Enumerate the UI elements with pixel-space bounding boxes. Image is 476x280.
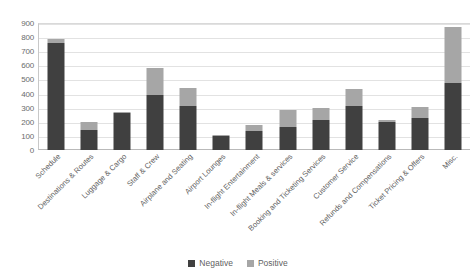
bar-stack[interactable] — [180, 88, 197, 151]
bar-group[interactable] — [271, 23, 304, 150]
bar-group[interactable] — [304, 23, 337, 150]
y-axis-tick-label: 200 — [21, 117, 34, 126]
y-axis-tick-label: 600 — [21, 61, 34, 70]
bar-segment-negative[interactable] — [113, 113, 130, 150]
y-axis-tick-label: 100 — [21, 131, 34, 140]
bar-stack[interactable] — [412, 107, 429, 150]
bar-group[interactable] — [404, 23, 437, 150]
bar-segment-positive[interactable] — [180, 88, 197, 106]
y-axis-tick-label: 700 — [21, 47, 34, 56]
bar-stack[interactable] — [113, 112, 130, 150]
bar-segment-positive[interactable] — [147, 68, 164, 95]
bar-stack[interactable] — [47, 39, 64, 150]
bar-group[interactable] — [437, 23, 470, 150]
bar-segment-positive[interactable] — [80, 122, 97, 130]
y-axis-tick-label: 0 — [30, 146, 34, 155]
chart-legend: NegativePositive — [0, 258, 476, 268]
bar-segment-negative[interactable] — [279, 127, 296, 150]
bar-stack[interactable] — [147, 68, 164, 150]
bar-stack[interactable] — [279, 110, 296, 150]
bar-series-container — [39, 23, 470, 150]
y-axis-tick-label: 400 — [21, 89, 34, 98]
legend-swatch-positive — [247, 260, 254, 267]
bar-group[interactable] — [371, 23, 404, 150]
bar-group[interactable] — [337, 23, 370, 150]
bar-segment-positive[interactable] — [445, 27, 462, 83]
bar-segment-negative[interactable] — [47, 43, 64, 150]
legend-label: Positive — [258, 258, 288, 268]
x-axis: ScheduleDestinations & RoutesLuggage & C… — [39, 152, 470, 247]
y-axis: 9008007006005004003002001000 — [0, 23, 34, 150]
bar-segment-negative[interactable] — [213, 136, 230, 150]
bar-group[interactable] — [72, 23, 105, 150]
bar-stack[interactable] — [445, 27, 462, 150]
bar-segment-negative[interactable] — [412, 118, 429, 150]
bar-segment-negative[interactable] — [246, 131, 263, 150]
bar-segment-negative[interactable] — [147, 95, 164, 150]
bar-segment-negative[interactable] — [379, 122, 396, 150]
bar-segment-negative[interactable] — [80, 130, 97, 150]
stacked-bar-chart: 9008007006005004003002001000 ScheduleDes… — [0, 0, 476, 280]
bar-stack[interactable] — [345, 89, 362, 150]
bar-segment-negative[interactable] — [345, 106, 362, 150]
bar-stack[interactable] — [80, 122, 97, 150]
bar-segment-negative[interactable] — [445, 83, 462, 150]
legend-label: Negative — [199, 258, 233, 268]
legend-item[interactable]: Positive — [247, 258, 288, 268]
legend-swatch-negative — [188, 260, 195, 267]
y-axis-tick-label: 500 — [21, 75, 34, 84]
bar-group[interactable] — [172, 23, 205, 150]
bar-segment-positive[interactable] — [412, 107, 429, 118]
y-axis-tick-label: 800 — [21, 33, 34, 42]
bar-segment-positive[interactable] — [312, 108, 329, 120]
bar-stack[interactable] — [213, 135, 230, 150]
bar-segment-negative[interactable] — [312, 120, 329, 150]
y-axis-tick-label: 900 — [21, 19, 34, 28]
bar-group[interactable] — [205, 23, 238, 150]
legend-item[interactable]: Negative — [188, 258, 233, 268]
bar-stack[interactable] — [312, 108, 329, 150]
y-axis-tick-label: 300 — [21, 103, 34, 112]
bar-group[interactable] — [39, 23, 72, 150]
bar-segment-positive[interactable] — [279, 110, 296, 127]
bar-stack[interactable] — [246, 125, 263, 150]
bar-group[interactable] — [238, 23, 271, 150]
bar-segment-positive[interactable] — [345, 89, 362, 106]
bar-stack[interactable] — [379, 120, 396, 150]
bar-segment-negative[interactable] — [180, 106, 197, 150]
bar-group[interactable] — [138, 23, 171, 150]
bar-group[interactable] — [105, 23, 138, 150]
